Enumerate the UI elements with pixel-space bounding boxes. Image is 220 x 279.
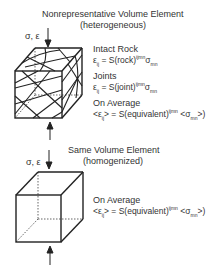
eq-mid: > = S(equivalent) (104, 109, 169, 119)
eq-rhs-sub: mn (150, 88, 157, 94)
eq-sup: ijmn (169, 205, 178, 211)
eq-mid: = S(rock) (99, 55, 136, 65)
eq-mid: > = S(equivalent) (104, 206, 169, 216)
joints-label: Joints (93, 71, 117, 81)
eq-rhs: <σ (178, 109, 191, 119)
top-load-arrows (45, 28, 53, 140)
diagram-graphics (0, 0, 220, 279)
top-load-label: σ, ε (25, 31, 40, 41)
bottom-load-label: σ, ε (26, 157, 41, 167)
eq-sup: ijmn (136, 81, 145, 87)
bottom-title: Same Volume Element (68, 145, 160, 155)
top-subtitle: (heterogeneous) (80, 20, 146, 30)
top-average-label: On Average (93, 98, 140, 108)
bottom-subtitle: (homogenized) (83, 156, 143, 166)
intact-rock-label: Intact Rock (93, 44, 138, 54)
intact-rock-equation: εij = S(rock)ijmnσmn (93, 55, 157, 65)
top-average-equation: <εij> = S(equivalent)ijmn <σmn>) (93, 109, 205, 119)
eq-rhs-sub: mn (151, 61, 158, 67)
eq-lhs: <ε (93, 109, 102, 119)
bottom-average-label: On Average (93, 195, 140, 205)
jointed-cube (15, 48, 82, 118)
joints-equation: εij = S(joint)ijmnσmn (93, 82, 157, 92)
eq-sup: ijmn (136, 54, 145, 60)
eq-lhs: <ε (93, 206, 102, 216)
eq-rhs: <σ (178, 206, 191, 216)
eq-mid: = S(joint) (99, 82, 136, 92)
bottom-average-equation: <εij> = S(equivalent)ijmn <σmn>) (93, 206, 205, 216)
homogenized-cube (16, 172, 83, 242)
eq-end: >) (197, 206, 205, 216)
bottom-load-arrows (46, 150, 53, 265)
eq-end: >) (197, 109, 205, 119)
top-title: Nonrepresentative Volume Element (42, 9, 184, 19)
eq-sup: ijmn (169, 108, 178, 114)
